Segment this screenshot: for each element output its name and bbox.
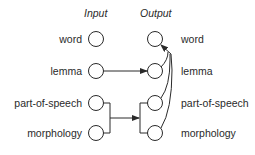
diagram-canvas: [0, 0, 255, 155]
input-node-morphology: [89, 126, 104, 141]
output-node-lemma: [148, 64, 163, 79]
output-node-part-of-speech: [148, 96, 163, 111]
output-node-word: [148, 32, 163, 47]
edge-pos-morph-merge: [104, 103, 148, 133]
output-node-morphology: [148, 126, 163, 141]
input-node-word: [89, 32, 104, 47]
input-node-lemma: [89, 64, 104, 79]
input-node-part-of-speech: [89, 96, 104, 111]
edge-outputs-to-word: [161, 45, 172, 128]
